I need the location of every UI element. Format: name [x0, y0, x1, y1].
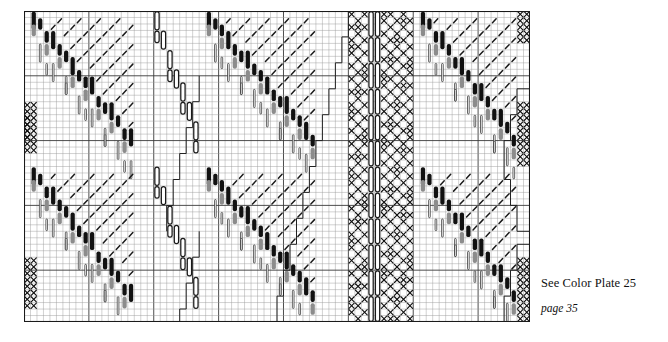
- pattern-chart-canvas: [24, 11, 530, 322]
- caption: See Color Plate 25 page 35: [541, 276, 668, 314]
- pattern-chart: [24, 11, 530, 322]
- plate-figure-page: See Color Plate 25 page 35: [0, 0, 668, 342]
- color-plate-reference: See Color Plate 25: [541, 276, 668, 291]
- page-reference: page 35: [541, 302, 668, 314]
